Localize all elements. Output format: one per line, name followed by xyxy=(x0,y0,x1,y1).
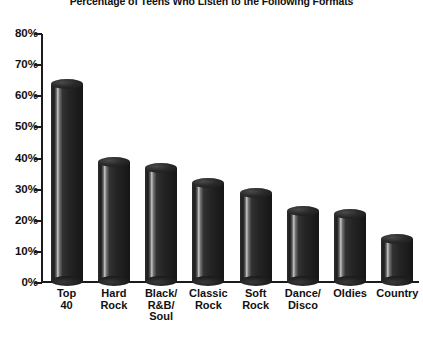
bar-body xyxy=(145,168,177,281)
x-axis-labels: Top 40Hard RockBlack/ R&B/ SoulClassic R… xyxy=(41,288,419,341)
bar-bottom-ellipse xyxy=(287,276,319,286)
y-axis-label: 20% xyxy=(2,215,38,227)
y-axis-label: 70% xyxy=(2,59,38,71)
bar-bottom-ellipse xyxy=(381,276,413,286)
y-tick-80pct xyxy=(34,33,42,35)
bar-top-ellipse xyxy=(98,157,130,167)
bar-body xyxy=(287,211,319,281)
bar xyxy=(192,178,224,286)
x-axis-label: Country xyxy=(374,288,421,300)
y-axis-label: 40% xyxy=(2,153,38,165)
x-axis-label: Dance/ Disco xyxy=(279,288,326,311)
bar-bottom-ellipse xyxy=(51,276,83,286)
y-tick-70pct xyxy=(34,64,42,66)
bar-body xyxy=(98,162,130,282)
y-axis-label: 0% xyxy=(2,277,38,289)
bar-body xyxy=(381,239,413,281)
bar-body xyxy=(334,214,366,281)
y-axis-label: 80% xyxy=(2,28,38,40)
x-axis-label: Hard Rock xyxy=(90,288,137,311)
plot-area xyxy=(41,34,419,283)
x-axis-label: Soft Rock xyxy=(232,288,279,311)
bar-top-ellipse xyxy=(240,188,272,198)
bar-bottom-ellipse xyxy=(145,276,177,286)
y-axis-labels: 0%10%20%30%40%50%60%70%80% xyxy=(0,34,38,283)
bar-body xyxy=(51,84,83,281)
bar-bottom-ellipse xyxy=(98,276,130,286)
bar xyxy=(240,188,272,286)
bar-bottom-ellipse xyxy=(192,276,224,286)
chart-title: Percentage of Teens Who Listen to the Fo… xyxy=(0,0,423,7)
y-tick-10pct xyxy=(34,251,42,253)
y-tick-0pct xyxy=(34,282,42,284)
y-axis-label: 30% xyxy=(2,184,38,196)
bar-top-ellipse xyxy=(51,79,83,89)
y-axis-label: 60% xyxy=(2,90,38,102)
bar-body xyxy=(192,183,224,281)
bar-top-ellipse xyxy=(145,163,177,173)
y-axis-label: 10% xyxy=(2,246,38,258)
bar-chart: Percentage of Teens Who Listen to the Fo… xyxy=(0,0,423,341)
y-tick-60pct xyxy=(34,95,42,97)
x-axis-label: Classic Rock xyxy=(185,288,232,311)
bar xyxy=(145,163,177,286)
bar-body xyxy=(240,193,272,281)
bar xyxy=(381,234,413,286)
bar-bottom-ellipse xyxy=(240,276,272,286)
x-axis-label: Oldies xyxy=(327,288,374,300)
x-axis-label: Black/ R&B/ Soul xyxy=(138,288,185,323)
y-tick-20pct xyxy=(34,220,42,222)
y-axis-label: 50% xyxy=(2,121,38,133)
bar xyxy=(98,157,130,287)
bar xyxy=(334,209,366,286)
bar xyxy=(287,206,319,286)
bar xyxy=(51,79,83,286)
y-tick-30pct xyxy=(34,189,42,191)
bar-bottom-ellipse xyxy=(334,276,366,286)
y-tick-50pct xyxy=(34,126,42,128)
y-tick-40pct xyxy=(34,158,42,160)
x-axis-label: Top 40 xyxy=(43,288,90,311)
